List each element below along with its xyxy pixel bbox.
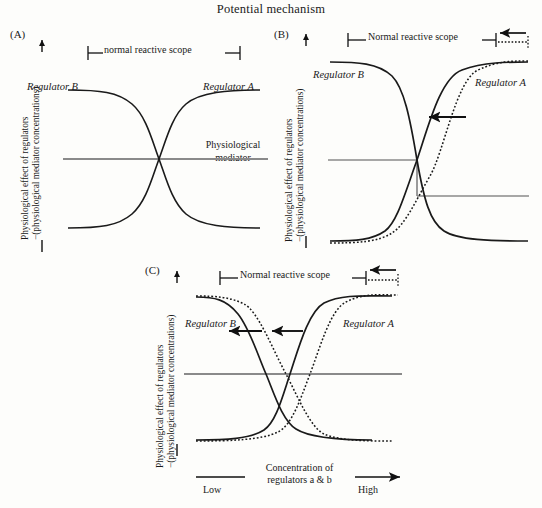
y-axis-up-arrowhead-a bbox=[39, 40, 45, 46]
scope-bracket-a bbox=[88, 46, 240, 60]
figure-vector-layer bbox=[0, 0, 542, 508]
scope-shift-indicator-c bbox=[368, 270, 398, 286]
curve-regulator-a-shifted-c bbox=[196, 295, 398, 441]
panel-a-plot bbox=[39, 40, 268, 252]
curve-regulator-a-c bbox=[196, 296, 392, 440]
panel-b-plot bbox=[303, 33, 529, 248]
panel-c-plot bbox=[174, 270, 402, 477]
curve-regulator-a-shifted-b bbox=[330, 61, 528, 243]
figure-potential-mechanism: Potential mechanism (A) Physiological ef… bbox=[0, 0, 542, 508]
curve-regulator-b-b bbox=[330, 62, 528, 241]
scope-shift-indicator-b bbox=[498, 33, 528, 48]
y-axis-up-arrowhead-b bbox=[303, 34, 309, 40]
y-axis-up-arrowhead-c bbox=[174, 271, 180, 277]
curve-regulator-b-shifted-c bbox=[196, 296, 392, 441]
scope-bracket-c bbox=[220, 271, 366, 285]
scope-bracket-b bbox=[348, 33, 496, 47]
curve-regulator-a-b bbox=[330, 62, 528, 241]
curve-regulator-b-c bbox=[196, 297, 372, 440]
